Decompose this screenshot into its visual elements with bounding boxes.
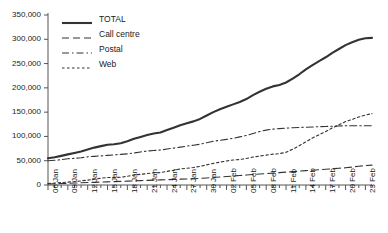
y-axis-tick-label: 300,000 <box>0 35 41 43</box>
y-axis-tick-label: 150,000 <box>0 108 41 116</box>
x-axis-tick-label: 23 Feb <box>369 168 377 193</box>
x-axis-tick-label: 24 Jan <box>171 169 179 193</box>
legend-swatch-icon <box>62 59 92 69</box>
legend-label: Postal <box>99 44 123 54</box>
legend-item-postal: Postal <box>62 41 182 56</box>
x-axis-tick-label: 14 Feb <box>309 168 317 193</box>
chart-container: 050,000100,000150,000200,000250,000300,0… <box>0 0 388 233</box>
x-axis-tick-label: 11 Feb <box>290 169 298 193</box>
legend-item-total: TOTAL <box>62 11 182 26</box>
legend-swatch-icon <box>62 44 92 54</box>
x-axis-tick-label: 27 Jan <box>190 169 198 193</box>
x-axis-tick-label: 18 Jan <box>131 169 139 193</box>
x-axis-tick-label: 30 Jan <box>210 169 218 193</box>
x-axis-tick-label: 02 Feb <box>230 168 238 193</box>
legend-swatch-icon <box>62 14 92 24</box>
x-axis-tick-label: 15 Jan <box>111 169 119 193</box>
y-axis-tick-label: 250,000 <box>0 60 41 68</box>
legend-item-web: Web <box>62 56 182 71</box>
y-axis-tick-label: 200,000 <box>0 84 41 92</box>
legend-label: Call centre <box>99 29 140 39</box>
y-axis-tick-label: 100,000 <box>0 132 41 140</box>
x-axis-tick-label: 06 Jan <box>52 169 60 193</box>
legend-item-call-centre: Call centre <box>62 26 182 41</box>
line-chart-plot <box>0 0 388 233</box>
x-axis-tick-label: 08 Feb <box>270 168 278 193</box>
y-axis-tick-label: 0 <box>0 181 41 189</box>
x-axis-tick-label: 20 Feb <box>349 168 357 193</box>
legend-swatch-icon <box>62 29 92 39</box>
x-axis-tick-label: 21 Jan <box>151 169 159 193</box>
x-axis-tick-label: 05 Feb <box>250 168 258 193</box>
x-axis-tick-label: 17 Feb <box>329 168 337 193</box>
chart-legend: TOTALCall centrePostalWeb <box>62 11 182 71</box>
y-axis-tick-label: 50,000 <box>0 157 41 165</box>
legend-label: TOTAL <box>99 14 126 24</box>
x-axis-tick-label: 12 Jan <box>91 169 99 193</box>
y-axis-tick-label: 350,000 <box>0 11 41 19</box>
series-line-postal <box>48 126 372 161</box>
legend-label: Web <box>99 59 116 69</box>
x-axis-tick-label: 09 Jan <box>71 169 79 193</box>
